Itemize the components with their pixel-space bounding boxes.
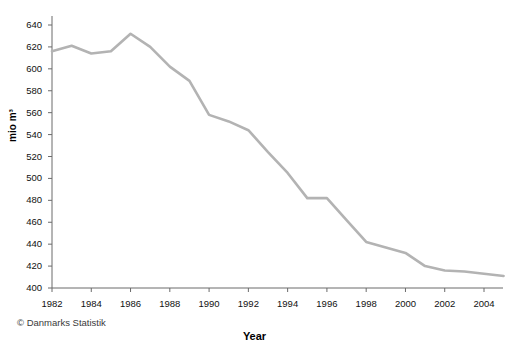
y-axis-tick-label: 600 [8,64,42,74]
x-axis-tick-label: 1988 [150,299,190,309]
y-axis-tick-label: 500 [8,173,42,183]
y-axis-title: mio m³ [7,96,18,156]
y-axis-tick-label: 580 [8,86,42,96]
chart-container: 400420440460480500520540560580600620640 … [0,0,509,353]
y-axis-tick-label: 400 [8,283,42,293]
y-axis-tick-label: 480 [8,195,42,205]
x-axis-tick-label: 2004 [464,299,504,309]
x-axis-tick-label: 1982 [32,299,72,309]
x-axis-tick-label: 1986 [111,299,151,309]
y-axis-tick-marks [48,25,52,288]
x-axis-tick-label: 1994 [268,299,308,309]
x-axis-tick-label: 1992 [228,299,268,309]
y-axis-tick-label: 640 [8,20,42,30]
x-axis-tick-label: 2000 [385,299,425,309]
y-axis-tick-label: 440 [8,239,42,249]
copyright-credit: © Danmarks Statistik [17,317,106,328]
x-axis-tick-label: 1984 [71,299,111,309]
y-axis-tick-label: 620 [8,42,42,52]
x-axis-tick-label: 2002 [425,299,465,309]
x-axis-tick-marks [52,288,484,292]
x-axis-tick-label: 1996 [307,299,347,309]
x-axis-tick-label: 1990 [189,299,229,309]
data-series-line [52,34,504,276]
y-axis-tick-label: 460 [8,217,42,227]
chart-axes [52,16,503,288]
x-axis-title: Year [0,330,509,342]
y-axis-tick-label: 420 [8,261,42,271]
x-axis-tick-label: 1998 [346,299,386,309]
